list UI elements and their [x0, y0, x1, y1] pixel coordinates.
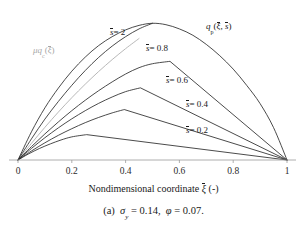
curve-s-0-4	[18, 110, 287, 160]
figure-caption: (a) σy = 0.14, φ = 0.07.	[0, 205, 307, 216]
annotation-mu-qc: μqc(ξ)	[33, 46, 55, 55]
curve-s-0-6	[18, 88, 287, 160]
x-tick-label-5: 1	[285, 167, 290, 177]
curve-label-s-eq-2: s= 2	[110, 28, 125, 37]
annotation-qp: qp(ξ, s)	[206, 22, 231, 31]
x-axis-ticks	[18, 160, 287, 163]
x-tick-label-2: 0.4	[120, 167, 132, 177]
curve-label-s-eq-0p4: s= 0.4	[186, 100, 208, 109]
curve-label-s-eq-0p6: s= 0.6	[166, 76, 188, 85]
x-tick-label-4: 0.8	[227, 167, 239, 177]
x-tick-label-1: 0.2	[66, 167, 78, 177]
curve-label-s-eq-0p2: s= 0.2	[186, 126, 208, 135]
x-tick-label-0: 0	[16, 167, 21, 177]
x-axis-title: Nondimensional coordinate ξ (-)	[0, 183, 307, 194]
figure-panel: μqc(ξ) qp(ξ, s) s= 2 s= 0.8 s= 0.6 s= 0.…	[0, 0, 307, 226]
x-tick-label-3: 0.6	[173, 167, 185, 177]
x-axis	[9, 160, 296, 163]
curve-s-0-8	[18, 61, 287, 160]
curve-label-s-eq-0p8: s= 0.8	[146, 44, 168, 53]
